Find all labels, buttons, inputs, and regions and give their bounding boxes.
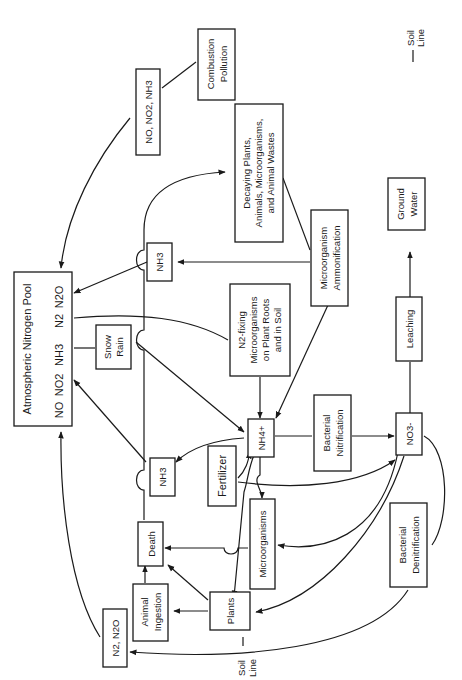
edge-decaying-to-ammonification [283, 178, 310, 250]
fertilizer-label: Fertilizer [216, 455, 228, 498]
edge-nh3mid-to-atmosphere [74, 380, 146, 462]
edge-no3-to-plants [256, 456, 404, 612]
soil-bottom-text: Soil [236, 660, 247, 676]
node-fertilizer: Fertilizer [208, 446, 236, 506]
node-animal-ingestion: Animal Ingestion [133, 584, 168, 641]
node-snow-rain: Snow Rain [96, 325, 131, 369]
death-label: Death [146, 531, 157, 556]
species-n2o: N2O [53, 285, 65, 308]
node-microorganism-ammonification: Microorganism Ammonification [311, 210, 348, 306]
species-nh3: NH3 [53, 344, 65, 366]
soil-line-bottom: Soil Line [236, 659, 258, 677]
node-bacterial-denitrification: Bacterial Denitrification [390, 503, 427, 587]
no3-label: NO3- [404, 423, 415, 446]
no-no2-nh3-label: NO, NO2, NH3 [143, 80, 154, 143]
leaching-label: Leaching [404, 310, 415, 349]
combustion-line-2: Pollution [218, 46, 229, 82]
ammonification-line-2: Ammonification [331, 226, 342, 291]
soil-line-legend: Soil Line [405, 29, 426, 47]
line-bottom-text: Line [247, 659, 258, 677]
plants-label: Plants [225, 598, 236, 625]
edge-snowrain-to-nh4 [136, 342, 244, 432]
legend-line-text: Line [415, 29, 426, 47]
ammonification-line-1: Microorganism [318, 227, 329, 289]
edge-combustion-to-nox [162, 62, 196, 88]
nitrification-line-1: Bacterial [321, 415, 332, 452]
node-nitrate: NO3- [396, 413, 422, 455]
edge-n2n2o-to-atmosphere [61, 432, 100, 637]
n2-fixing-line-3: on Plant Roots [260, 299, 271, 362]
ground-water-line-2: Water [408, 192, 419, 217]
node-decaying-matter: Decaying Plants, Animals, Microorganisms… [235, 104, 283, 242]
ground-water-line-1: Ground [395, 188, 406, 220]
node-no-no2-nh3: NO, NO2, NH3 [136, 69, 160, 155]
decaying-line-1: Decaying Plants, [241, 137, 252, 208]
decaying-line-3: and Animal Wastes [265, 132, 276, 213]
node-nh3-top: NH3 [147, 243, 172, 281]
nh3-mid-label: NH3 [157, 467, 168, 486]
edge-denitrification-to-n2n2o [130, 590, 408, 654]
n2-n2o-label: N2, N2O [110, 620, 121, 657]
nitrogen-cycle-diagram: Atmospheric Nitrogen Pool NO NO2 NH3 N2 … [0, 0, 462, 680]
node-n2-fixing-microorganisms: N2-fixing Microorganisms on Plant Roots … [230, 284, 290, 376]
n2-fixing-line-1: N2-fixing [236, 311, 247, 349]
denitrification-line-1: Bacterial [397, 527, 408, 564]
node-ground-water: Ground Water [388, 178, 425, 230]
node-n2-n2o: N2, N2O [103, 609, 127, 667]
nh4-label: NH4+ [256, 425, 267, 450]
node-leaching: Leaching [396, 297, 422, 361]
node-atmospheric-nitrogen-pool: Atmospheric Nitrogen Pool NO NO2 NH3 N2 … [14, 272, 72, 426]
species-n2: N2 [53, 314, 65, 328]
edge-microorganisms-to-death [165, 548, 248, 554]
decaying-line-2: Animals, Microorganisms, [253, 119, 264, 228]
nitrification-line-2: Nitrification [334, 410, 345, 457]
denitrification-line-2: Denitrification [410, 516, 421, 574]
n2-fixing-line-2: Microorganisms [248, 296, 259, 363]
node-bacterial-nitrification: Bacterial Nitrification [314, 395, 351, 471]
ingestion-line-1: Animal [139, 597, 150, 626]
node-ammonium: NH4+ [248, 419, 274, 457]
edge-nh4-to-microorganisms [257, 455, 262, 498]
edge-nh3top-to-atmosphere [74, 262, 147, 293]
node-nh3-mid: NH3 [150, 458, 175, 496]
snow-rain-line-1: Snow [102, 335, 113, 359]
species-no: NO [53, 401, 65, 418]
node-microorganisms: Microorganisms [250, 499, 275, 589]
ingestion-line-2: Ingestion [152, 593, 163, 632]
edge-nox-to-atmosphere [61, 118, 130, 268]
n2-fixing-line-4: and in Soil [272, 308, 283, 352]
edge-plants-to-death [168, 565, 208, 600]
node-combustion-pollution: Combustion Pollution [198, 29, 235, 100]
snow-rain-line-2: Rain [114, 337, 125, 357]
combustion-line-1: Combustion [205, 39, 216, 90]
atmospheric-pool-title: Atmospheric Nitrogen Pool [21, 284, 33, 415]
node-death: Death [138, 522, 163, 566]
nh3-top-label: NH3 [154, 252, 165, 271]
microorganisms-label: Microorganisms [257, 510, 268, 577]
node-plants: Plants [210, 592, 250, 630]
species-no2: NO2 [53, 374, 65, 397]
